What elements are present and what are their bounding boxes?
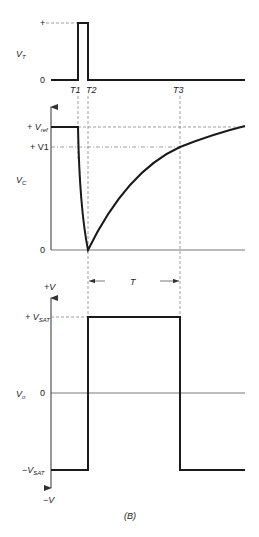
t3-label: T3 [173, 85, 184, 95]
t2-label: T2 [86, 85, 97, 95]
vo-plot: +V + VSAT Vo 0 −VSAT −V [16, 282, 245, 505]
figure-caption: (B) [124, 511, 136, 521]
vc-trace [51, 126, 245, 250]
vt-plot: + VT 0 T1 T2 T3 [16, 18, 245, 95]
vo-neg-axis-label: −V [43, 495, 55, 505]
period-label: T [130, 277, 137, 287]
vc-zero-tick: 0 [40, 245, 45, 255]
vc-ylabel: VC [16, 175, 27, 186]
vo-zero-tick: 0 [40, 388, 45, 398]
vsat-pos-label: + VSAT [25, 312, 51, 323]
timing-diagram: + VT 0 T1 T2 T3 + Vref + V1 VC 0 T +V + … [0, 0, 259, 537]
vsat-neg-label: −VSAT [22, 465, 46, 476]
vt-ylabel: VT [16, 49, 27, 60]
vt-top-tick: + [40, 18, 45, 28]
period-marker: T [89, 277, 179, 287]
vref-label: + Vref [27, 122, 49, 133]
vc-plot: + Vref + V1 VC 0 [16, 107, 245, 255]
vt-zero-tick: 0 [40, 75, 45, 85]
vo-pos-axis-label: +V [44, 282, 56, 292]
t1-label: T1 [70, 85, 81, 95]
vt-trace [51, 23, 245, 80]
v1-label: + V1 [30, 142, 49, 152]
vo-ylabel: Vo [16, 389, 26, 400]
vo-trace [51, 317, 245, 470]
